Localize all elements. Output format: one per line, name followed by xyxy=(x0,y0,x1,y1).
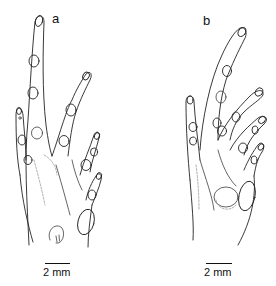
figure: a xyxy=(0,0,276,286)
scale-bar-b xyxy=(206,263,232,264)
hand-drawing-b xyxy=(0,0,276,286)
scale-label-b: 2 mm xyxy=(204,267,232,278)
